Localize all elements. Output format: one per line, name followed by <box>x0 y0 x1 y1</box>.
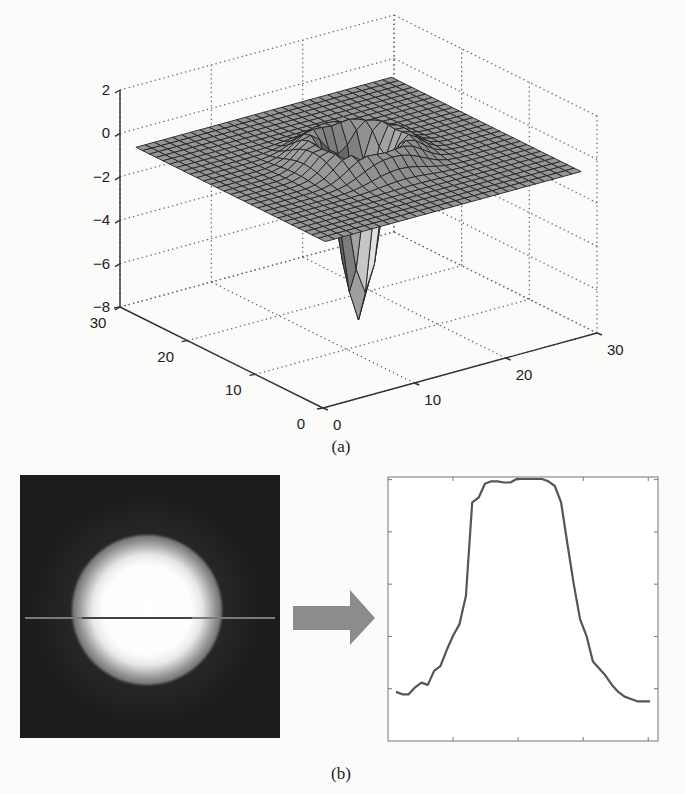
x-tick <box>506 358 511 360</box>
z-tick-label: −8 <box>93 298 110 315</box>
x-tick-label: 0 <box>333 416 341 433</box>
profile-line-plot <box>388 477 658 741</box>
x-tick <box>597 333 602 335</box>
blob-image <box>20 475 280 738</box>
surface-mesh <box>136 77 581 320</box>
z-tick <box>115 264 120 267</box>
arrow-icon <box>293 590 375 645</box>
y-tick <box>182 341 188 342</box>
z-tick-label: −6 <box>93 255 110 272</box>
y-tick-label: 10 <box>225 381 242 398</box>
x-tick-label: 20 <box>516 366 533 383</box>
z-tick-label: 2 <box>102 81 110 98</box>
z-tick <box>115 177 120 180</box>
y-tick-label: 20 <box>157 348 174 365</box>
z-tick-label: −4 <box>93 211 110 228</box>
x-tick-label: 30 <box>607 341 624 358</box>
z-tick <box>115 133 120 136</box>
scan-line-segment <box>82 617 192 619</box>
plot-frame <box>388 477 658 741</box>
gridline-z <box>120 15 394 90</box>
z-tick <box>115 220 120 223</box>
x-tick <box>323 408 328 410</box>
z-tick <box>115 90 120 93</box>
y-tick-label: 30 <box>90 314 107 331</box>
bright-blob <box>72 535 222 685</box>
caption-a: (a) <box>332 437 351 456</box>
y-tick <box>317 408 323 409</box>
z-tick-label: −2 <box>93 168 110 185</box>
x-tick <box>414 383 419 385</box>
x-tick-label: 10 <box>424 391 441 408</box>
caption-b: (b) <box>331 764 351 783</box>
y-tick-label: 0 <box>297 415 305 432</box>
z-tick-label: 0 <box>102 124 110 141</box>
y-tick <box>249 374 255 375</box>
